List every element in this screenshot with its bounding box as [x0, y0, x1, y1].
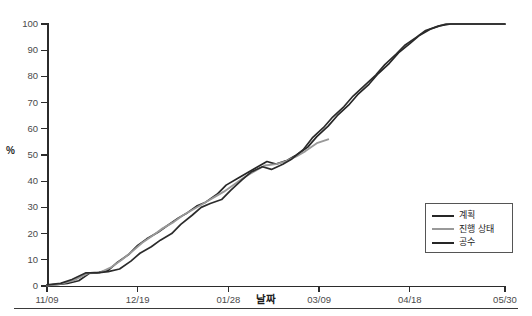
y-tick-label: 20 — [0, 228, 38, 239]
legend-swatch — [432, 215, 454, 217]
y-tick-label: 0 — [0, 280, 38, 291]
legend-swatch — [432, 242, 454, 244]
legend-label: 계획 — [459, 211, 475, 220]
series-line — [47, 139, 328, 285]
y-tick-label: 30 — [0, 201, 38, 212]
legend-label: 공수 — [459, 238, 475, 247]
y-tick-label: 10 — [0, 254, 38, 265]
y-tick-label: 70 — [0, 97, 38, 108]
x-axis-title: 날짜 — [0, 291, 532, 306]
y-tick-label: 60 — [0, 123, 38, 134]
footer-divider — [14, 308, 518, 309]
legend-swatch — [432, 228, 454, 230]
legend-item: 공수 — [432, 236, 507, 250]
legend-item: 계획 — [432, 209, 507, 223]
y-tick-label: 50 — [0, 149, 38, 160]
chart-figure: % 0102030405060708090100 11/0912/1901/28… — [0, 0, 532, 316]
y-tick-label: 90 — [0, 44, 38, 55]
y-tick-label: 80 — [0, 70, 38, 81]
legend-item: 진행 상태 — [432, 223, 507, 237]
y-tick-label: 40 — [0, 175, 38, 186]
legend: 계획진행 상태공수 — [425, 203, 513, 253]
legend-label: 진행 상태 — [459, 225, 494, 234]
y-tick-label: 100 — [0, 18, 38, 29]
